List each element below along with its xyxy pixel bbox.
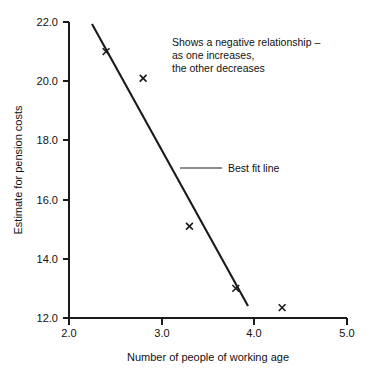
x-tick-label-3: 3.0 — [154, 327, 169, 339]
relationship-note-line-2: as one increases, — [172, 49, 254, 61]
y-axis-title: Estimate for pension costs — [12, 105, 24, 235]
chart-figure: 22.0 20.0 18.0 16.0 14.0 12.0 2.0 3.0 4.… — [0, 0, 369, 372]
y-tick-label-14: 14.0 — [37, 253, 58, 265]
y-tick-label-20: 20.0 — [37, 75, 58, 87]
x-tick-label-4: 4.0 — [246, 327, 261, 339]
x-tick-label-2: 2.0 — [61, 327, 76, 339]
x-tick-label-5: 5.0 — [339, 327, 354, 339]
scatter-plot: 22.0 20.0 18.0 16.0 14.0 12.0 2.0 3.0 4.… — [0, 0, 369, 372]
x-axis-title: Number of people of working age — [127, 351, 289, 363]
y-tick-label-18: 18.0 — [37, 134, 58, 146]
relationship-note-line-3: the other decreases — [172, 62, 265, 74]
relationship-note-line-1: Shows a negative relationship – — [172, 36, 320, 48]
y-tick-label-12: 12.0 — [37, 312, 58, 324]
y-tick-label-22: 22.0 — [37, 16, 58, 28]
best-fit-callout-label: Best fit line — [228, 162, 280, 174]
y-tick-label-16: 16.0 — [37, 194, 58, 206]
